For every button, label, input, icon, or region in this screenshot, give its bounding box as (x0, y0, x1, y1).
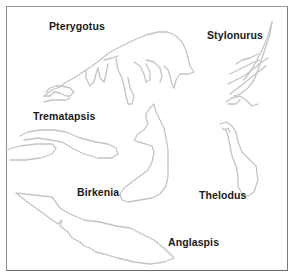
birkenia-outline (120, 104, 168, 202)
creature-outlines (0, 0, 292, 278)
label-anglaspis: Anglaspis (168, 236, 219, 248)
label-trematapsis: Trematapsis (33, 110, 95, 122)
label-birkenia: Birkenia (77, 186, 119, 198)
thelodus-outline (220, 122, 258, 196)
label-stylonurus: Stylonurus (207, 29, 263, 41)
anglaspis-outline (16, 193, 174, 264)
label-thelodus: Thelodus (199, 189, 246, 201)
pterygotus-outline (44, 32, 194, 104)
label-pterygotus: Pterygotus (49, 20, 105, 32)
trematapsis-outline (6, 130, 118, 160)
